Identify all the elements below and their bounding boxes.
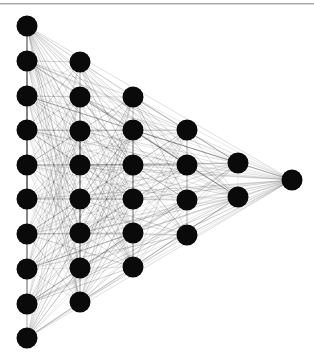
graph-node[interactable] bbox=[123, 155, 144, 176]
graph-node[interactable] bbox=[17, 189, 38, 210]
graph-node[interactable] bbox=[177, 120, 198, 141]
graph-node[interactable] bbox=[17, 328, 38, 349]
graph-node[interactable] bbox=[177, 190, 198, 211]
graph-node[interactable] bbox=[17, 16, 38, 37]
graph-node[interactable] bbox=[177, 155, 198, 176]
graph-edge-layer bbox=[27, 26, 292, 338]
graph-node[interactable] bbox=[282, 170, 303, 191]
graph-node[interactable] bbox=[17, 51, 38, 72]
graph-node[interactable] bbox=[70, 121, 91, 142]
graph-node[interactable] bbox=[123, 257, 144, 278]
graph-node[interactable] bbox=[70, 292, 91, 313]
graph-node[interactable] bbox=[228, 153, 249, 174]
graph-node[interactable] bbox=[17, 294, 38, 315]
graph-node[interactable] bbox=[70, 223, 91, 244]
network-graph-canvas bbox=[0, 0, 314, 359]
graph-node[interactable] bbox=[123, 120, 144, 141]
graph-node[interactable] bbox=[17, 120, 38, 141]
graph-panel bbox=[0, 0, 314, 359]
graph-node[interactable] bbox=[70, 189, 91, 210]
graph-node[interactable] bbox=[70, 258, 91, 279]
graph-node[interactable] bbox=[123, 189, 144, 210]
graph-node[interactable] bbox=[70, 155, 91, 176]
graph-node[interactable] bbox=[177, 225, 198, 246]
graph-node[interactable] bbox=[70, 87, 91, 108]
graph-node[interactable] bbox=[17, 259, 38, 280]
graph-node[interactable] bbox=[17, 155, 38, 176]
graph-node[interactable] bbox=[17, 86, 38, 107]
graph-node[interactable] bbox=[228, 187, 249, 208]
graph-node[interactable] bbox=[70, 52, 91, 73]
graph-node[interactable] bbox=[17, 224, 38, 245]
graph-node[interactable] bbox=[123, 223, 144, 244]
graph-node[interactable] bbox=[123, 87, 144, 108]
